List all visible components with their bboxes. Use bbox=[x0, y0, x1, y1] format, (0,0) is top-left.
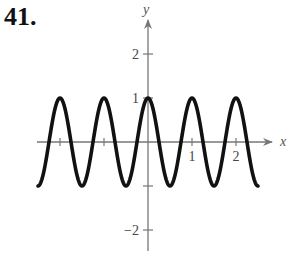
x-tick-label: 1 bbox=[189, 149, 196, 164]
y-tick-label: 1 bbox=[132, 91, 139, 106]
y-axis-label: y bbox=[141, 2, 150, 17]
y-tick-label: 2 bbox=[132, 47, 139, 62]
x-tick-label: 2 bbox=[233, 149, 240, 164]
chart-plot: 12 −212 x y bbox=[0, 0, 294, 270]
x-axis-label: x bbox=[279, 134, 287, 149]
y-tick-label: −2 bbox=[124, 223, 139, 238]
